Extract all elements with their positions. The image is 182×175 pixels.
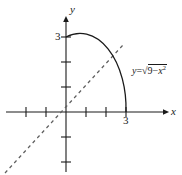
plot-canvas <box>0 0 182 175</box>
equation-radical: √9−x2 <box>142 63 167 76</box>
semicircle-curve <box>66 33 126 112</box>
x-axis-tick-label-3: 3 <box>123 115 129 126</box>
figure-container: y x 3 3 y=√9−x2 <box>0 0 182 175</box>
identity-line-dashed <box>5 45 123 173</box>
curve-equation-label: y=√9−x2 <box>132 63 167 76</box>
y-axis-label: y <box>70 4 75 15</box>
equation-radicand: 9−x2 <box>148 64 167 76</box>
radicand-exponent: 2 <box>163 64 166 71</box>
x-axis-label: x <box>171 106 176 117</box>
y-axis-tick-label-3: 3 <box>55 31 61 42</box>
